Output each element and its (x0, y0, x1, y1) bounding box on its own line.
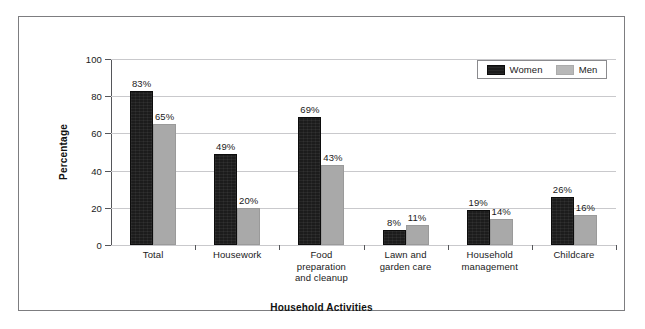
bar-wrapper: 83% (130, 59, 153, 245)
x-tick-label-5: Childcare (531, 249, 617, 261)
bar-wrapper: 16% (574, 59, 597, 245)
value-label-men-3: 11% (408, 212, 427, 223)
bar-women-2[interactable] (298, 117, 321, 245)
bar-group-1: 49%20%Housework (195, 59, 279, 245)
x-tick-label-2: Foodpreparationand cleanup (278, 249, 364, 284)
value-label-women-5: 26% (553, 184, 572, 195)
value-label-women-0: 83% (132, 78, 151, 89)
value-label-men-0: 65% (155, 111, 174, 122)
y-axis-title: Percentage (58, 124, 69, 180)
value-label-women-4: 19% (469, 197, 488, 208)
legend-label-men: Men (579, 64, 598, 75)
bar-women-4[interactable] (467, 210, 490, 245)
bar-group-0: 83%65%Total (111, 59, 195, 245)
x-tick-label-0: Total (110, 249, 196, 261)
bar-wrapper: 49% (214, 59, 237, 245)
value-label-men-2: 43% (323, 152, 342, 163)
legend-label-women: Women (510, 64, 543, 75)
y-tick-0 (105, 245, 111, 246)
value-label-men-5: 16% (576, 202, 595, 213)
bar-men-2[interactable] (321, 165, 344, 245)
bar-women-1[interactable] (214, 154, 237, 245)
bar-men-3[interactable] (406, 225, 429, 245)
men-swatch-icon (556, 65, 574, 75)
y-tick-label-80: 80 (91, 91, 102, 102)
bar-men-0[interactable] (153, 124, 176, 245)
x-tick-label-3: Lawn andgarden care (363, 249, 449, 272)
bar-wrapper: 65% (153, 59, 176, 245)
value-label-men-4: 14% (492, 206, 511, 217)
bar-men-4[interactable] (490, 219, 513, 245)
bar-wrapper: 20% (237, 59, 260, 245)
y-tick-label-60: 60 (91, 128, 102, 139)
bar-group-5: 26%16%Childcare (532, 59, 616, 245)
value-label-men-1: 20% (239, 195, 258, 206)
value-label-women-2: 69% (300, 104, 319, 115)
bar-women-5[interactable] (551, 197, 574, 245)
bars: 69%43% (279, 59, 363, 245)
bar-men-5[interactable] (574, 215, 597, 245)
y-tick-label-100: 100 (86, 54, 102, 65)
women-swatch-icon (487, 65, 505, 75)
x-axis-title: Household Activities (19, 302, 624, 313)
bars: 49%20% (195, 59, 279, 245)
bar-wrapper: 14% (490, 59, 513, 245)
chart-frame: Percentage Household Activities 02040608… (18, 16, 625, 311)
bar-group-2: 69%43%Foodpreparationand cleanup (279, 59, 363, 245)
bar-wrapper: 69% (298, 59, 321, 245)
bar-women-3[interactable] (383, 230, 406, 245)
bar-wrapper: 19% (467, 59, 490, 245)
y-tick-label-40: 40 (91, 165, 102, 176)
bars: 19%14% (448, 59, 532, 245)
bar-group-4: 19%14%Householdmanagement (448, 59, 532, 245)
value-label-women-1: 49% (216, 141, 235, 152)
y-tick-label-0: 0 (97, 240, 102, 251)
bar-wrapper: 11% (406, 59, 429, 245)
legend-item-men[interactable]: Men (556, 64, 598, 75)
bar-wrapper: 26% (551, 59, 574, 245)
x-tick-label-1: Housework (194, 249, 280, 261)
plot-area: 020406080100 83%65%Total49%20%Housework6… (111, 59, 616, 245)
bars: 83%65% (111, 59, 195, 245)
bar-men-1[interactable] (237, 208, 260, 245)
bars: 8%11% (364, 59, 448, 245)
legend-item-women[interactable]: Women (487, 64, 543, 75)
bar-wrapper: 8% (383, 59, 406, 245)
x-tick-label-4: Householdmanagement (447, 249, 533, 272)
bar-wrapper: 43% (321, 59, 344, 245)
bar-group-3: 8%11%Lawn andgarden care (364, 59, 448, 245)
value-label-women-3: 8% (387, 217, 401, 228)
bar-women-0[interactable] (130, 91, 153, 245)
bars: 26%16% (532, 59, 616, 245)
chart-legend[interactable]: Women Men (477, 60, 607, 79)
y-tick-label-20: 20 (91, 202, 102, 213)
